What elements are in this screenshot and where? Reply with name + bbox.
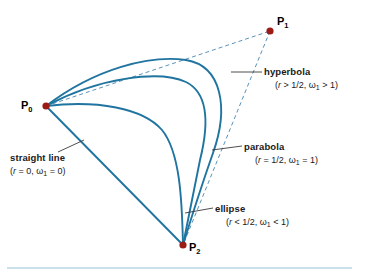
- control-leg-p0-p1: [46, 31, 270, 106]
- annotation-ellipse-params: (r < 1/2, ω1 < 1): [215, 216, 289, 232]
- annotation-straight-line: straight line (r = 0, ω1 = 0): [10, 152, 65, 180]
- annotation-straight-line-params-tail: = 0): [47, 166, 65, 176]
- annotation-parabola-params-tail: = 1): [300, 155, 318, 165]
- control-point-p2: [179, 241, 186, 248]
- annotation-straight-line-params-head: (r = 0, ω: [10, 166, 43, 176]
- point-label-p0-sub: 0: [28, 105, 32, 114]
- control-point-p0: [42, 102, 49, 109]
- leader-straight-line: [58, 140, 84, 152]
- point-label-p2: P2: [189, 241, 201, 256]
- annotation-straight-line-params: (r = 0, ω1 = 0): [10, 165, 65, 181]
- annotation-ellipse-name: ellipse: [215, 203, 245, 214]
- annotation-ellipse-params-tail: < 1): [271, 217, 289, 227]
- annotation-hyperbola-params: (r > 1/2, ω1 > 1): [264, 79, 338, 95]
- annotation-parabola: parabola (r = 1/2, ω1 = 1): [244, 141, 318, 169]
- annotation-straight-line-name: straight line: [10, 152, 65, 163]
- control-point-p1: [266, 27, 273, 34]
- annotation-ellipse: ellipse (r < 1/2, ω1 < 1): [215, 203, 289, 231]
- annotation-ellipse-params-head: (r < 1/2, ω: [226, 217, 267, 227]
- annotation-hyperbola-params-head: (r > 1/2, ω: [275, 80, 316, 90]
- annotation-hyperbola-params-tail: > 1): [320, 80, 338, 90]
- curve-hyperbola: [46, 59, 221, 245]
- point-label-p1-sub: 1: [284, 21, 288, 30]
- point-label-p2-sub: 2: [196, 247, 200, 256]
- annotation-hyperbola: hyperbola (r > 1/2, ω1 > 1): [264, 66, 338, 94]
- diagram-svg: [0, 0, 368, 278]
- point-label-p0: P0: [21, 99, 33, 114]
- point-label-p1: P1: [277, 15, 289, 30]
- curve-straight-line: [46, 106, 183, 245]
- annotation-parabola-name: parabola: [244, 141, 284, 152]
- annotation-hyperbola-name: hyperbola: [264, 66, 310, 77]
- annotation-parabola-params-head: (r = 1/2, ω: [255, 155, 296, 165]
- annotation-parabola-params: (r = 1/2, ω1 = 1): [244, 154, 318, 170]
- leader-parabola: [212, 146, 242, 150]
- figure-canvas: P0 P1 P2 hyperbola (r > 1/2, ω1 > 1) par…: [0, 0, 368, 278]
